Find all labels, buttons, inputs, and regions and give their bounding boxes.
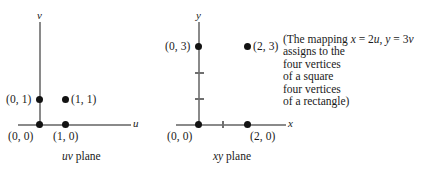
mapping-figure: v u (0, 0) (1, 0) (0, 1) (1, 1) uv plane…	[0, 0, 441, 172]
uv-point-label-1-1: (1, 1)	[71, 93, 97, 105]
xy-point-label-0-3: (0, 3)	[165, 40, 191, 52]
xy-point-label-2-0: (2, 0)	[250, 130, 276, 142]
mapping-note-line-1: (The mapping x = 2u, y = 3v	[283, 33, 435, 45]
mapping-note-line-5: four vertices	[283, 83, 435, 95]
uv-point-0-0	[36, 121, 43, 128]
xy-point-2-3	[244, 43, 251, 50]
xy-plane-caption-rest: plane	[223, 150, 251, 162]
xy-x-axis-line	[176, 124, 286, 126]
uv-point-0-1	[36, 96, 43, 103]
mapping-note: (The mapping x = 2u, y = 3v assigns to t…	[283, 33, 435, 107]
xy-y-axis-tick-1	[195, 98, 204, 100]
uv-v-axis-label: v	[37, 10, 42, 21]
xy-point-0-3	[195, 43, 202, 50]
xy-y-axis-line	[198, 22, 200, 128]
xy-y-axis-label: y	[196, 10, 201, 21]
mapping-note-line-6: of a rectangle)	[283, 95, 435, 107]
uv-plane-caption: uv plane	[62, 150, 101, 162]
mapping-note-line-2: assigns to the	[283, 45, 435, 57]
uv-point-1-1	[62, 96, 69, 103]
uv-u-axis-line	[18, 124, 131, 126]
note-l1-a: (The mapping	[283, 33, 351, 45]
xy-x-axis-tick-1	[222, 121, 224, 128]
xy-point-2-0	[244, 121, 251, 128]
uv-point-1-0	[62, 121, 69, 128]
uv-v-axis-line	[39, 22, 41, 128]
xy-x-axis-label: x	[288, 118, 293, 129]
uv-point-label-0-0: (0, 0)	[8, 130, 34, 142]
uv-point-label-0-1: (0, 1)	[6, 93, 32, 105]
note-l1-d: = 3	[390, 33, 408, 45]
xy-plane-caption: xy plane	[213, 150, 251, 162]
note-l1-b: = 2	[356, 33, 374, 45]
mapping-note-line-3: four vertices	[283, 58, 435, 70]
xy-point-label-0-0: (0, 0)	[167, 130, 193, 142]
uv-point-label-1-0: (1, 0)	[53, 130, 79, 142]
uv-plane-caption-italic: uv	[62, 150, 73, 162]
xy-plane-caption-italic: xy	[213, 150, 223, 162]
uv-plane-caption-rest: plane	[73, 150, 101, 162]
xy-point-label-2-3: (2, 3)	[253, 40, 279, 52]
uv-u-axis-label: u	[133, 118, 139, 129]
mapping-note-line-4: of a square	[283, 70, 435, 82]
xy-point-0-0	[195, 121, 202, 128]
note-l1-v: v	[408, 33, 413, 45]
xy-y-axis-tick-2	[195, 72, 204, 74]
